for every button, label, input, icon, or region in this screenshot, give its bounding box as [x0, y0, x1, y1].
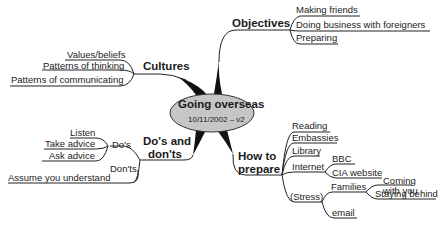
node-doing-business[interactable]: Doing business with foreigners	[296, 19, 425, 30]
node-values-beliefs[interactable]: Values/beliefs	[67, 49, 125, 60]
node-library[interactable]: Library	[292, 145, 321, 156]
node-families[interactable]: Families	[331, 181, 366, 192]
node-dos[interactable]: Do's	[112, 139, 131, 150]
branch-how-to-prepare-line1: How to	[238, 150, 280, 163]
node-staying-behind[interactable]: Staying behind	[375, 188, 438, 199]
node-donts[interactable]: Don'ts	[110, 163, 137, 174]
node-patterns-thinking[interactable]: Patterns of thinking	[43, 60, 124, 71]
connector-objectives	[219, 30, 290, 62]
branch-objectives[interactable]: Objectives	[232, 17, 290, 30]
wedge-dos	[193, 130, 206, 155]
branch-dos-donts-line2: don'ts	[143, 148, 187, 161]
branch-cultures[interactable]: Cultures	[143, 60, 190, 73]
node-internet[interactable]: Internet	[292, 161, 324, 172]
node-preparing[interactable]: Preparing	[296, 32, 337, 43]
node-stress[interactable]: (Stress)	[290, 191, 323, 202]
wedge-objectives	[214, 60, 222, 94]
connector-doing-business	[290, 30, 430, 31]
connector-families	[322, 192, 366, 202]
node-embassies[interactable]: Embassies	[292, 132, 338, 143]
branch-how-to-prepare[interactable]: How to prepare	[238, 150, 280, 176]
node-bbc[interactable]: BBC	[332, 153, 352, 164]
branch-how-to-prepare-line2: prepare	[238, 163, 280, 176]
center-node-title: Going overseas	[178, 98, 264, 110]
connector-cultures	[134, 74, 186, 80]
node-listen[interactable]: Listen	[70, 127, 95, 138]
branch-dos-donts[interactable]: Do's and don'ts	[143, 135, 187, 161]
node-ask-advice[interactable]: Ask advice	[49, 150, 95, 161]
node-reading[interactable]: Reading	[292, 120, 327, 131]
node-patterns-communicating[interactable]: Patterns of communicating	[11, 74, 123, 85]
node-email[interactable]: email	[332, 207, 355, 218]
connector-internet	[282, 172, 325, 175]
node-making-friends[interactable]: Making friends	[296, 4, 358, 15]
node-assume-you-understand[interactable]: Assume you understand	[8, 172, 110, 183]
wedge-prepare	[217, 130, 233, 154]
node-take-advice[interactable]: Take advice	[45, 138, 95, 149]
wedge-cultures	[178, 77, 207, 95]
node-cia-website[interactable]: CIA website	[332, 167, 382, 178]
center-node-date: 10/11/2002 – v2	[188, 115, 245, 124]
branch-dos-donts-line1: Do's and	[143, 135, 187, 148]
